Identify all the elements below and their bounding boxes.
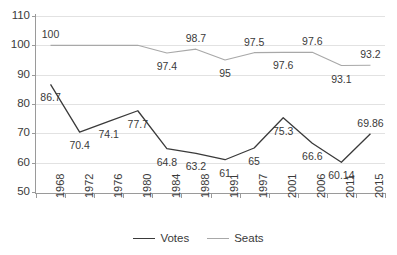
series-lines xyxy=(36,16,385,192)
x-axis-label: 1997 xyxy=(258,174,269,198)
x-axis-label: 1972 xyxy=(84,174,95,198)
data-label: 100 xyxy=(42,29,60,40)
x-axis-label: 1980 xyxy=(142,174,153,198)
y-axis-tick xyxy=(32,75,36,76)
data-label: 70.4 xyxy=(69,140,89,151)
data-label: 86.7 xyxy=(40,92,60,103)
x-axis-label: 1976 xyxy=(113,174,124,198)
line-chart: 86.770.474.177.764.863.2616575.366.660.1… xyxy=(0,0,397,255)
y-axis-tick xyxy=(32,133,36,134)
legend-swatch-votes xyxy=(133,238,155,239)
data-label: 97.4 xyxy=(157,61,177,72)
data-label: 74.1 xyxy=(98,129,118,140)
data-label: 97.6 xyxy=(273,60,293,71)
plot-area: 86.770.474.177.764.863.2616575.366.660.1… xyxy=(36,16,385,192)
x-axis-label: 1988 xyxy=(200,174,211,198)
series-line-seats xyxy=(51,45,371,65)
data-label: 65 xyxy=(248,156,260,167)
data-label: 95 xyxy=(219,68,231,79)
x-axis-tick xyxy=(36,194,37,198)
data-label: 66.6 xyxy=(302,151,322,162)
legend-label-seats: Seats xyxy=(234,232,263,244)
y-axis-tick xyxy=(32,192,36,193)
legend-item-seats[interactable]: Seats xyxy=(207,232,263,244)
x-axis-label: 2006 xyxy=(316,174,327,198)
y-axis-label: 110 xyxy=(2,10,30,22)
legend-label-votes: Votes xyxy=(160,232,189,244)
x-axis-label: 2011 xyxy=(345,174,356,198)
x-axis-label: 1968 xyxy=(55,174,66,198)
x-axis-label: 2015 xyxy=(374,174,385,198)
x-axis-tick xyxy=(385,194,386,198)
y-axis-tick xyxy=(32,163,36,164)
y-axis-tick xyxy=(32,45,36,46)
y-axis-label: 60 xyxy=(2,157,30,169)
y-axis-label: 50 xyxy=(2,186,30,198)
y-axis-tick xyxy=(32,104,36,105)
data-label: 97.5 xyxy=(244,37,264,48)
data-label: 97.6 xyxy=(302,36,322,47)
data-label: 63.2 xyxy=(186,161,206,172)
legend-item-votes[interactable]: Votes xyxy=(133,232,189,244)
data-label: 77.7 xyxy=(128,119,148,130)
data-label: 98.7 xyxy=(186,33,206,44)
legend-swatch-seats xyxy=(207,238,229,239)
y-axis-label: 80 xyxy=(2,98,30,110)
y-axis-label: 100 xyxy=(2,39,30,51)
y-axis-label: 90 xyxy=(2,69,30,81)
y-axis-label: 70 xyxy=(2,127,30,139)
data-label: 93.1 xyxy=(331,74,351,85)
chart-legend: Votes Seats xyxy=(0,232,397,244)
y-axis-tick xyxy=(32,16,36,17)
data-label: 64.8 xyxy=(157,157,177,168)
x-axis-label: 1984 xyxy=(171,174,182,198)
data-label: 69.86 xyxy=(357,118,383,129)
x-axis-label: 1991 xyxy=(229,174,240,198)
data-label: 93.2 xyxy=(360,49,380,60)
x-axis-label: 2001 xyxy=(287,174,298,198)
data-label: 75.3 xyxy=(273,126,293,137)
x-axis-tick xyxy=(356,194,357,198)
